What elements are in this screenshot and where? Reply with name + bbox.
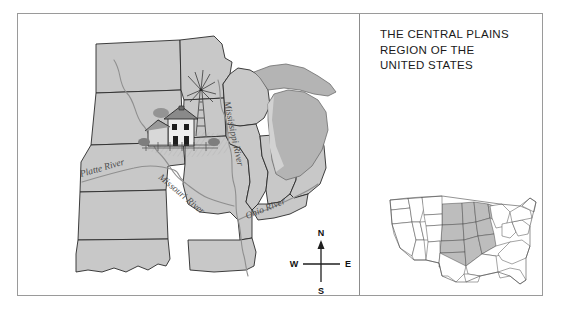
- legend-panel: THE CENTRAL PLAINS REGION OF THE UNITED …: [360, 14, 543, 295]
- map-title: THE CENTRAL PLAINS REGION OF THE UNITED …: [380, 27, 540, 74]
- compass-north-arrow: [318, 240, 325, 249]
- map-title-line-1: THE CENTRAL PLAINS: [380, 27, 540, 43]
- map-title-line-2: REGION OF THE: [380, 43, 540, 59]
- map-title-line-3: UNITED STATES: [380, 58, 540, 74]
- inset-state-oregon: [391, 208, 412, 224]
- central-plains-map: Platte River Missouri River Mississippi …: [18, 14, 359, 295]
- inset-state-carolinas: [498, 240, 530, 264]
- inset-map-container: [370, 184, 540, 289]
- compass-label-north: N: [318, 228, 325, 238]
- compass-rose: N S W E: [290, 228, 351, 295]
- map-figure: Platte River Missouri River Mississippi …: [0, 0, 561, 313]
- inset-state-montana: [422, 196, 442, 215]
- main-map-panel: Platte River Missouri River Mississippi …: [18, 14, 359, 295]
- compass-label-east: E: [345, 259, 351, 269]
- united-states-locator-map: [370, 184, 540, 289]
- figure-frame: Platte River Missouri River Mississippi …: [17, 13, 543, 296]
- inset-state-colorado: [426, 225, 442, 242]
- inset-state-new-mexico: [426, 241, 440, 263]
- inset-state-california: [392, 222, 416, 256]
- farmhouse-body: [168, 118, 194, 146]
- inset-state-wyoming: [424, 214, 442, 226]
- compass-label-west: W: [290, 259, 299, 269]
- compass-label-south: S: [318, 286, 324, 295]
- inset-state-georgia-fl: [498, 268, 526, 284]
- state-north-dakota: [96, 40, 181, 93]
- state-kansas: [78, 190, 168, 240]
- state-oklahoma: [76, 239, 170, 272]
